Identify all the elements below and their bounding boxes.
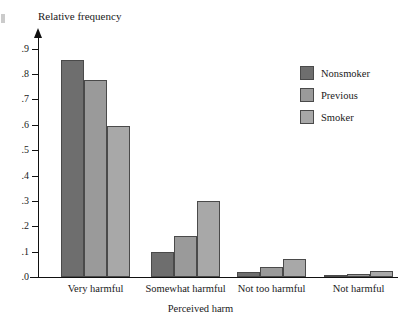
y-axis-tick	[32, 277, 39, 278]
legend-label: Nonsmoker	[321, 68, 370, 79]
legend-item: Previous	[300, 84, 370, 106]
y-axis-tick	[32, 49, 39, 50]
bar-group	[237, 36, 306, 277]
y-axis-tick-label: .6	[22, 120, 30, 130]
y-axis-tick-label: .3	[22, 196, 30, 206]
bar-group	[61, 36, 130, 277]
y-axis-tick	[32, 252, 39, 253]
bar	[174, 236, 197, 277]
legend-item: Smoker	[300, 106, 370, 128]
legend-swatch-icon	[300, 66, 314, 80]
y-axis-tick	[32, 201, 39, 202]
x-axis-title: Perceived harm	[0, 303, 401, 314]
bar	[197, 201, 220, 277]
y-axis-tick-label: .5	[22, 145, 30, 155]
y-axis-title: Relative frequency	[38, 10, 121, 22]
bar-chart: Relative frequency .0.1.2.3.4.5.6.7.8.9 …	[0, 0, 401, 324]
y-axis-tick	[32, 226, 39, 227]
y-axis-tick	[32, 99, 39, 100]
y-axis-tick-label: .9	[22, 44, 30, 54]
y-axis-tick	[32, 74, 39, 75]
y-axis-tick-label: .2	[22, 221, 30, 231]
y-axis-tick-label: .7	[22, 94, 30, 104]
edge-artifact	[1, 14, 5, 23]
y-axis-tick	[32, 125, 39, 126]
y-axis-tick	[32, 176, 39, 177]
y-axis-tick	[32, 150, 39, 151]
y-axis-tick-label: .8	[22, 69, 30, 79]
bar	[260, 267, 283, 277]
y-axis-tick-label: .0	[22, 272, 30, 282]
bar	[283, 259, 306, 277]
y-axis-tick-label: .1	[22, 247, 30, 257]
legend: NonsmokerPreviousSmoker	[300, 62, 370, 128]
bar	[324, 275, 347, 277]
bar	[151, 252, 174, 277]
legend-label: Previous	[321, 90, 358, 101]
legend-item: Nonsmoker	[300, 62, 370, 84]
bar	[347, 274, 370, 277]
bar-group	[151, 36, 220, 277]
x-axis-category-label: Not harmful	[299, 283, 401, 294]
legend-swatch-icon	[300, 88, 314, 102]
bar	[107, 126, 130, 277]
bar	[84, 80, 107, 277]
x-axis-line	[30, 277, 398, 278]
y-axis-tick-label: .4	[22, 171, 30, 181]
bar	[61, 60, 84, 277]
bar	[370, 271, 393, 277]
legend-label: Smoker	[321, 112, 354, 123]
legend-swatch-icon	[300, 110, 314, 124]
bar	[237, 272, 260, 277]
